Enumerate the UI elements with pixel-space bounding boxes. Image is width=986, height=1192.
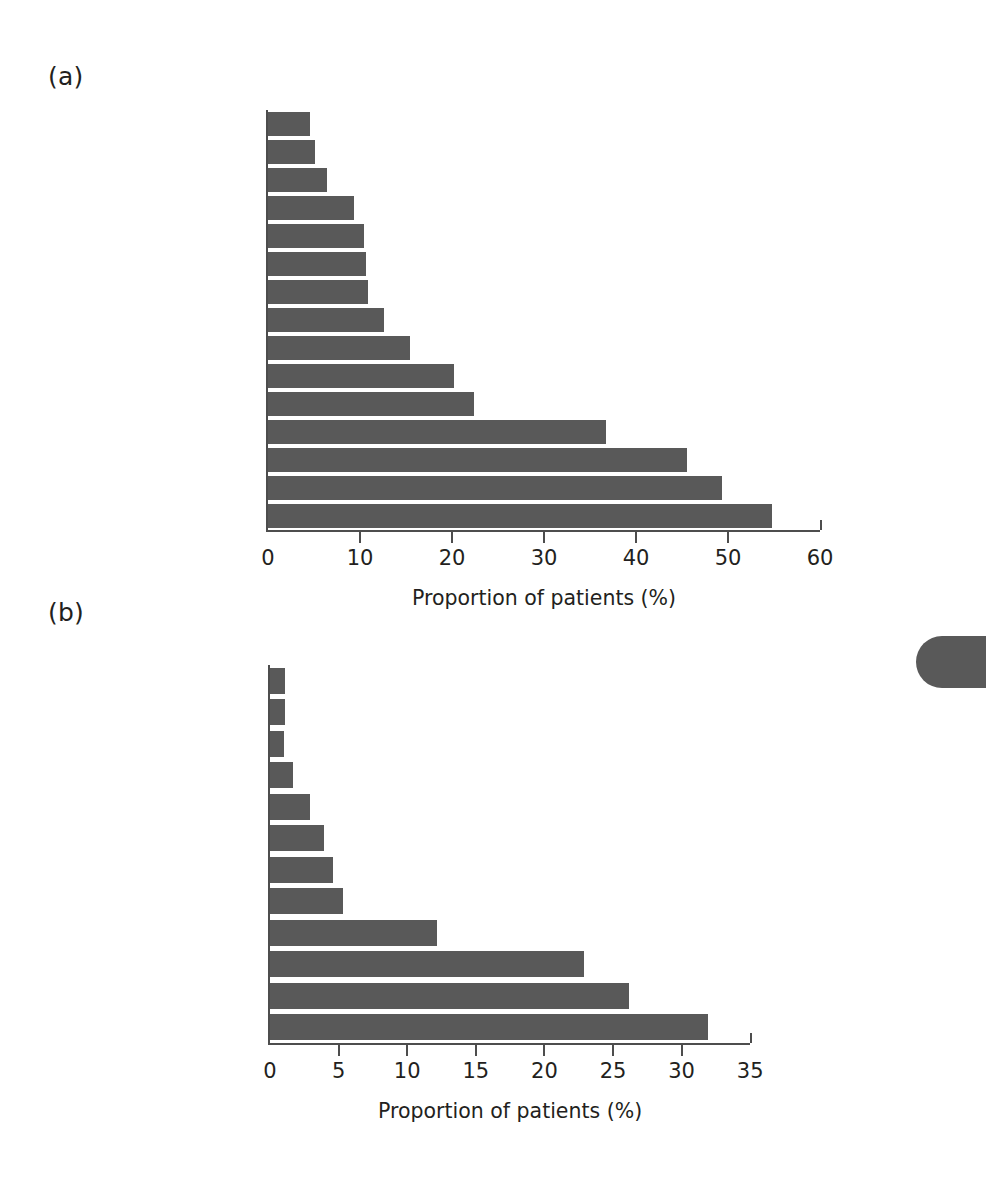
bar <box>268 308 384 332</box>
x-axis-tick <box>543 1045 545 1056</box>
x-axis-tick <box>475 1045 477 1056</box>
bar <box>268 252 366 276</box>
x-axis-tick-label: 20 <box>439 548 466 569</box>
x-axis-right-cap <box>750 1033 752 1043</box>
x-axis-tick-label: 30 <box>668 1061 695 1082</box>
x-axis-tick-label: 20 <box>531 1061 558 1082</box>
x-axis-tick-label: 0 <box>261 548 274 569</box>
bar <box>268 280 368 304</box>
bar <box>268 420 606 444</box>
x-axis-tick <box>451 532 453 543</box>
bar <box>268 140 315 164</box>
x-axis-tick <box>635 532 637 543</box>
bar <box>268 476 722 500</box>
bar <box>268 504 772 528</box>
bar <box>268 196 354 220</box>
bar <box>270 668 285 694</box>
x-axis-left-cap <box>266 520 268 530</box>
x-axis-tick-label: 10 <box>394 1061 421 1082</box>
bar <box>270 794 310 820</box>
x-axis-tick-label: 35 <box>737 1061 764 1082</box>
x-axis-title: Proportion of patients (%) <box>412 588 676 609</box>
bar <box>270 888 343 914</box>
x-axis-left-cap <box>268 1033 270 1043</box>
x-axis-tick-label: 10 <box>347 548 374 569</box>
bar <box>270 857 333 883</box>
bar <box>270 1014 708 1040</box>
x-axis-tick-label: 0 <box>263 1061 276 1082</box>
x-axis-right-cap <box>820 520 822 530</box>
x-axis-tick-label: 40 <box>623 548 650 569</box>
bar <box>270 951 584 977</box>
bar <box>268 112 310 136</box>
x-axis-tick <box>681 1045 683 1056</box>
x-axis-tick-label: 60 <box>807 548 834 569</box>
x-axis-tick-label: 30 <box>531 548 558 569</box>
x-axis-tick-label: 15 <box>462 1061 489 1082</box>
x-axis-tick <box>727 532 729 543</box>
x-axis-tick <box>612 1045 614 1056</box>
page-edge-artifact <box>916 636 986 688</box>
x-axis-title: Proportion of patients (%) <box>378 1101 642 1122</box>
panel-b-label: (b) <box>48 598 84 627</box>
bar <box>270 920 437 946</box>
bar <box>270 983 629 1009</box>
bar <box>270 699 285 725</box>
bar <box>268 336 410 360</box>
panel-a-label: (a) <box>48 62 83 91</box>
bar <box>268 224 364 248</box>
x-axis-tick-label: 25 <box>600 1061 627 1082</box>
bar <box>268 168 327 192</box>
x-axis-tick <box>338 1045 340 1056</box>
x-axis-line-1 <box>268 1043 750 1045</box>
bar <box>268 448 687 472</box>
x-axis-tick <box>359 532 361 543</box>
bar <box>268 392 474 416</box>
x-axis-tick <box>543 532 545 543</box>
bar <box>268 364 454 388</box>
bar <box>270 731 284 757</box>
x-axis-tick-label: 50 <box>715 548 742 569</box>
x-axis-tick <box>406 1045 408 1056</box>
bar <box>270 762 293 788</box>
bar <box>270 825 324 851</box>
x-axis-tick-label: 5 <box>332 1061 345 1082</box>
